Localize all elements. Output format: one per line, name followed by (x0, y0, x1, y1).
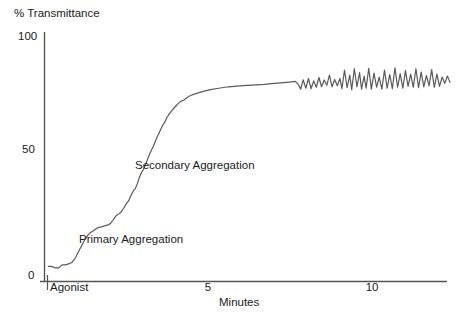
transmittance-aggregation-chart: % Transmittance 100 50 0 5 10 Minutes Ag… (0, 0, 465, 327)
annotation-primary-aggregation: Primary Aggregation (79, 234, 183, 246)
annotation-agonist: Agonist (50, 282, 88, 294)
x-tick-label-5: 5 (205, 282, 211, 294)
x-tick-label-10: 10 (366, 282, 379, 294)
y-axis-title: % Transmittance (14, 8, 100, 20)
annotation-secondary-aggregation: Secondary Aggregation (135, 160, 255, 172)
y-tick-label-0: 0 (28, 270, 34, 282)
y-tick-label-100: 100 (18, 31, 37, 43)
x-axis-title: Minutes (219, 297, 259, 309)
y-tick-label-50: 50 (22, 144, 35, 156)
